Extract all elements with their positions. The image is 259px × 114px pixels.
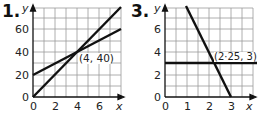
x-axis-label: x	[245, 100, 253, 113]
y-axis-label: y	[21, 2, 29, 15]
x-tick: 2	[52, 100, 59, 113]
y-tick: 6	[154, 23, 161, 36]
x-tick: 1	[184, 100, 191, 113]
x-axis-label: x	[115, 100, 123, 113]
x-tick: 3	[228, 100, 235, 113]
y-tick: 4	[154, 46, 161, 59]
x-tick: 0	[162, 100, 169, 113]
x-tick: 4	[74, 100, 81, 113]
intersection-label: (4, 40)	[79, 52, 114, 64]
y-tick: 0	[154, 91, 161, 104]
x-tick: 2	[206, 100, 213, 113]
chart-3: y x 0 1 2 3 0 2 4 6 (2·25, 3)	[129, 0, 259, 114]
x-tick: 0	[30, 100, 37, 113]
x-tick: 6	[96, 100, 103, 113]
y-tick: 60	[15, 23, 29, 36]
y-tick: 2	[154, 69, 161, 82]
chart-1: y x 0 2 4 6 0 20 40 60 (4, 40)	[0, 0, 130, 114]
y-tick: 20	[15, 69, 29, 82]
y-axis-label: y	[153, 2, 161, 15]
intersection-label: (2·25, 3)	[214, 51, 257, 62]
y-tick: 0	[22, 91, 29, 104]
chart-panel-1: 1. y x 0 2 4 6 0	[0, 0, 130, 114]
chart-panel-3: 3. y x 0 1 2 3 0	[129, 0, 259, 114]
y-tick: 40	[15, 46, 29, 59]
